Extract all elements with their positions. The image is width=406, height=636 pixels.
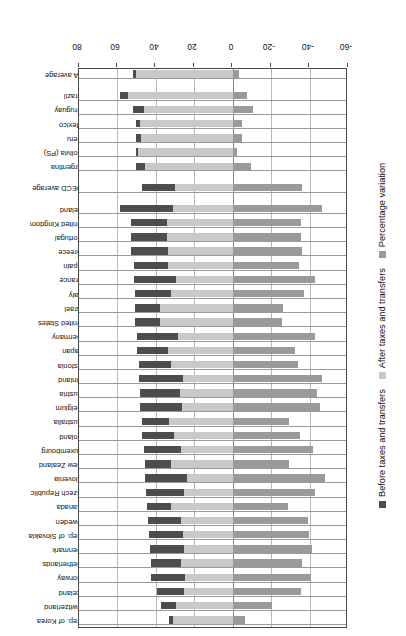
bar-after-taxes [178,333,233,340]
tick-mark [116,63,117,67]
bar-percentage-variation [233,375,322,382]
bar-percentage-variation [233,120,242,127]
bar-after-taxes [180,389,232,396]
category-label: Rep. of Slovakia [29,533,83,540]
category-separator [79,355,346,356]
bar-percentage-variation [233,163,251,170]
tick-mark [193,63,194,67]
bar-percentage-variation [233,616,245,623]
tick-mark [154,63,155,67]
bar-percentage-variation [233,489,316,496]
tick-mark [270,63,271,67]
bar-percentage-variation [233,432,300,439]
bar-percentage-variation [233,347,295,354]
bar-after-taxes [173,205,233,212]
category-separator [79,78,346,79]
tick-mark [347,63,348,67]
legend-label: After taxes and transfers [377,268,387,368]
legend-label: Before taxes and transfers [377,389,387,497]
category-separator [79,142,346,143]
bar-percentage-variation [233,290,304,297]
bar-percentage-variation [233,276,315,283]
bar-after-taxes [171,460,233,467]
tick-label: 20 [177,42,207,52]
legend-item: Percentage variation [377,163,387,258]
bar-percentage-variation [233,262,299,269]
bar-percentage-variation [233,70,239,77]
bar-percentage-variation [233,588,302,595]
bar-percentage-variation [233,134,243,141]
category-label: United States [38,320,82,327]
bar-percentage-variation [233,184,303,191]
category-label: Netherlands [43,561,83,568]
bar-after-taxes [160,318,233,325]
bar-percentage-variation [233,233,301,240]
bar-after-taxes [136,70,233,77]
category-separator [79,426,346,427]
category-separator [79,582,346,583]
bar-percentage-variation [233,205,322,212]
bar-after-taxes [183,375,233,382]
category-separator [79,497,346,498]
bar-percentage-variation [233,247,303,254]
legend-swatch [379,372,386,379]
bar-after-taxes [181,446,233,453]
bar-after-taxes [128,92,233,99]
bar-percentage-variation [233,503,288,510]
bar-percentage-variation [233,333,315,340]
category-separator [79,468,346,469]
bar-after-taxes [181,559,233,566]
bar-percentage-variation [233,304,283,311]
bar-after-taxes [175,184,233,191]
category-label: New Zealand [39,462,83,469]
category-label: Luxembourg [41,448,82,455]
category-separator [79,341,346,342]
category-separator [79,192,346,193]
category-label: Switzerland [44,604,82,611]
chart-legend: Before taxes and transfersAfter taxes an… [377,153,387,508]
bar-after-taxes [184,588,233,595]
tick-label: 40 [139,42,169,52]
tick-label: -60 [331,42,361,52]
bar-after-taxes [171,503,232,510]
bar-percentage-variation [233,460,289,467]
bar-after-taxes [160,304,232,311]
bar-percentage-variation [233,559,302,566]
category-label: OECD average [32,185,82,192]
category-separator [79,440,346,441]
category-separator [79,128,346,129]
category-separator [79,511,346,512]
bar-percentage-variation [233,418,289,425]
category-separator [79,227,346,228]
legend-item: Before taxes and transfers [377,389,387,508]
bar-after-taxes [173,616,233,623]
bar-after-taxes [174,432,233,439]
bar-after-taxes [171,290,233,297]
category-separator [79,397,346,398]
bar-percentage-variation [233,474,325,481]
bar-percentage-variation [233,517,308,524]
bar-after-taxes [168,347,233,354]
tick-label: 0 [216,42,246,52]
bar-percentage-variation [233,531,310,538]
bar-after-taxes [169,418,233,425]
category-label: Rep. of Korea [37,618,83,625]
bar-percentage-variation [233,403,320,410]
bar-after-taxes [145,163,233,170]
bar-percentage-variation [233,602,273,609]
legend-swatch [379,251,386,258]
category-separator [79,100,346,101]
category-separator [79,270,346,271]
bar-percentage-variation [233,148,237,155]
tick-label: 60 [100,42,130,52]
bar-percentage-variation [233,574,312,581]
bar-after-taxes [184,545,232,552]
category-label: Bolivia (PS) [44,150,83,157]
bar-after-taxes [181,517,233,524]
plot-area [78,68,347,628]
category-separator [79,411,346,412]
bar-percentage-variation [233,545,313,552]
bar-percentage-variation [233,446,313,453]
bar-after-taxes [141,134,233,141]
category-separator [79,114,346,115]
